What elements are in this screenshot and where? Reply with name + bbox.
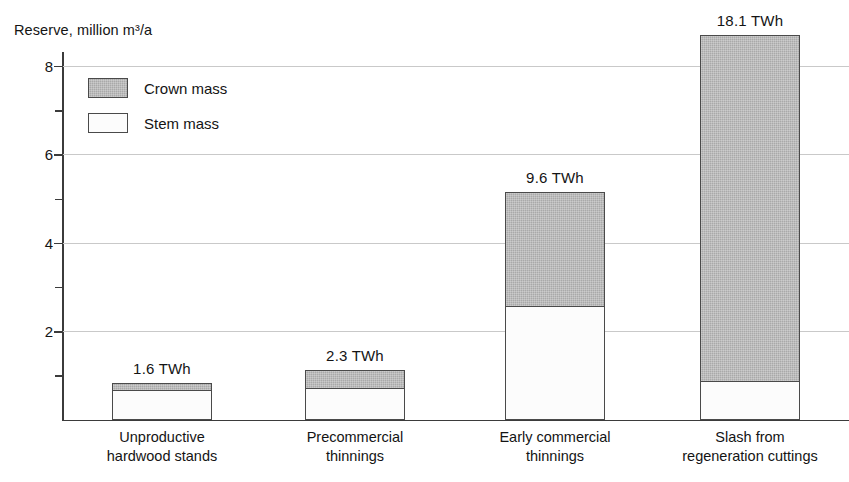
y-minor-tick-7 bbox=[55, 110, 63, 112]
bar-3-segment-stem-mass[interactable] bbox=[505, 305, 605, 419]
x-axis-category-label-3-line-1: Early commercial bbox=[455, 428, 655, 447]
y-tick-label-6: 6 bbox=[45, 146, 53, 163]
y-tick-mark-8 bbox=[54, 66, 63, 68]
x-axis-category-label-3-line-2: thinnings bbox=[455, 447, 655, 466]
legend-swatch-stem-mass-icon bbox=[88, 113, 128, 133]
x-axis-category-label-1-line-1: Unproductive bbox=[62, 428, 262, 447]
y-tick-mark-6 bbox=[54, 154, 63, 156]
bar-2[interactable]: 2.3 TWh bbox=[305, 370, 405, 420]
x-axis-category-label-2: Precommercialthinnings bbox=[255, 428, 455, 466]
x-axis-spine bbox=[62, 420, 849, 422]
bar-2-segment-crown-mass[interactable] bbox=[305, 370, 405, 389]
y-axis-spine bbox=[62, 52, 64, 421]
x-axis-category-label-4-line-1: Slash from bbox=[650, 428, 849, 447]
bar-4-value-label: 18.1 TWh bbox=[717, 12, 783, 29]
y-tick-label-8: 8 bbox=[45, 57, 53, 74]
x-axis-category-label-2-line-1: Precommercial bbox=[255, 428, 455, 447]
x-axis-category-label-3: Early commercialthinnings bbox=[455, 428, 655, 466]
bar-4-segment-stem-mass[interactable] bbox=[700, 381, 800, 419]
y-minor-tick-3 bbox=[55, 287, 63, 289]
y-tick-label-2: 2 bbox=[45, 323, 53, 340]
legend-item-crown-mass: Crown mass bbox=[88, 74, 227, 102]
x-axis-category-label-4-line-2: regeneration cuttings bbox=[650, 447, 849, 466]
bar-3[interactable]: 9.6 TWh bbox=[505, 192, 605, 420]
x-axis-category-label-1-line-2: hardwood stands bbox=[62, 447, 262, 466]
bar-1-segment-stem-mass[interactable] bbox=[112, 389, 212, 419]
bar-2-segment-stem-mass[interactable] bbox=[305, 388, 405, 420]
legend-swatch-crown-mass-icon bbox=[88, 78, 128, 98]
chart-legend: Crown mass Stem mass bbox=[88, 74, 227, 137]
y-tick-mark-2 bbox=[54, 331, 63, 333]
bar-1[interactable]: 1.6 TWh bbox=[112, 383, 212, 419]
y-minor-tick-1 bbox=[55, 375, 63, 377]
y-tick-mark-4 bbox=[54, 243, 63, 245]
y-minor-tick-5 bbox=[55, 199, 63, 201]
chart-container: Reserve, million m³/a 24681.6 TWh2.3 TWh… bbox=[0, 0, 849, 482]
y-tick-label-4: 4 bbox=[45, 234, 53, 251]
bar-3-segment-crown-mass[interactable] bbox=[505, 192, 605, 307]
bar-4-segment-crown-mass[interactable] bbox=[700, 35, 800, 382]
legend-label-stem-mass: Stem mass bbox=[144, 115, 219, 132]
x-axis-category-label-1: Unproductivehardwood stands bbox=[62, 428, 262, 466]
bar-4[interactable]: 18.1 TWh bbox=[700, 35, 800, 420]
x-axis-category-label-2-line-2: thinnings bbox=[255, 447, 455, 466]
bar-1-value-label: 1.6 TWh bbox=[133, 360, 191, 377]
bar-1-segment-crown-mass[interactable] bbox=[112, 383, 212, 391]
legend-item-stem-mass: Stem mass bbox=[88, 109, 227, 137]
x-axis-category-label-4: Slash fromregeneration cuttings bbox=[650, 428, 849, 466]
bar-3-value-label: 9.6 TWh bbox=[526, 169, 584, 186]
legend-label-crown-mass: Crown mass bbox=[144, 80, 227, 97]
bar-2-value-label: 2.3 TWh bbox=[326, 347, 384, 364]
